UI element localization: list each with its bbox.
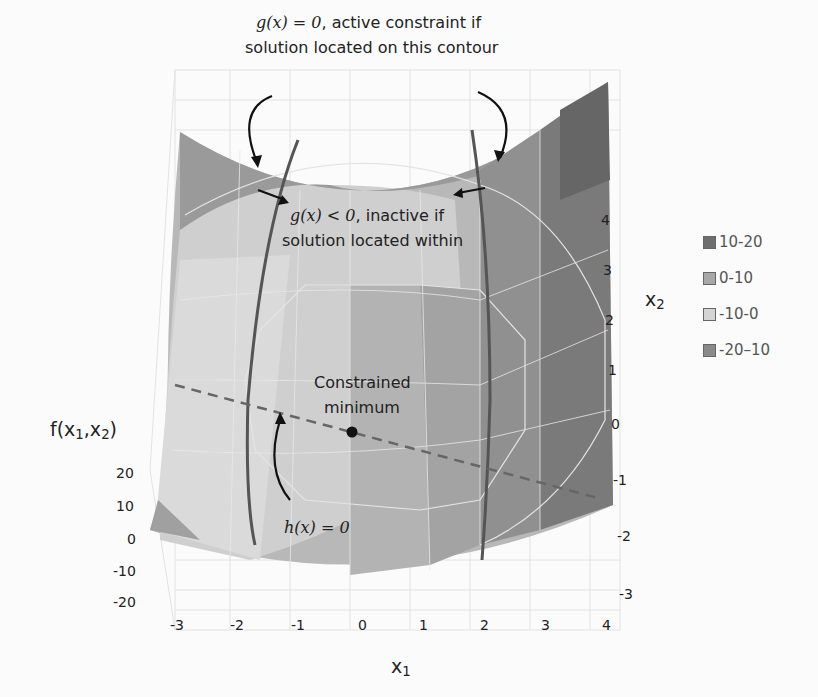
legend: 10-20 0-10 -10-0 -20–10 bbox=[703, 224, 770, 368]
x-title-sub: 1 bbox=[402, 664, 410, 679]
y-tick: 0 bbox=[611, 416, 620, 432]
annotation-minimum-label: minimum bbox=[324, 398, 400, 417]
z-title-part: ,x bbox=[84, 418, 101, 440]
y-tick: 3 bbox=[603, 262, 612, 278]
x-title-part: x bbox=[391, 655, 402, 677]
z-title-part: ) bbox=[110, 418, 117, 440]
surface-plot bbox=[0, 0, 818, 697]
legend-swatch-icon bbox=[703, 344, 716, 357]
z-title-sub: 1 bbox=[75, 427, 83, 442]
y-title-part: x bbox=[645, 288, 656, 310]
legend-swatch-icon bbox=[703, 272, 716, 285]
z-tick: 10 bbox=[116, 498, 134, 514]
z-title-part: f(x bbox=[50, 418, 75, 440]
z-tick: 0 bbox=[127, 531, 136, 547]
annotation-equality-constraint: h(x) = 0 bbox=[284, 518, 350, 537]
annotation-inactive-constraint: g(x) < 0, inactive if bbox=[290, 206, 444, 225]
legend-label: -10-0 bbox=[719, 305, 758, 323]
z-tick: 20 bbox=[116, 465, 134, 481]
annotation-constrained-label: Constrained bbox=[314, 373, 411, 392]
figure: g(x) = 0, active constraint if solution … bbox=[0, 0, 818, 697]
annotation-math-g-lt: g(x) < 0 bbox=[290, 206, 356, 225]
x-tick: -1 bbox=[291, 617, 305, 633]
x-tick: 2 bbox=[480, 617, 489, 633]
y-tick: -2 bbox=[617, 528, 631, 544]
y-title-sub: 2 bbox=[656, 297, 664, 312]
legend-swatch-icon bbox=[703, 308, 716, 321]
annotation-active-constraint: g(x) = 0, active constraint if bbox=[256, 13, 481, 32]
legend-item: 10-20 bbox=[703, 224, 770, 260]
y-axis-title: x2 bbox=[645, 288, 665, 312]
y-tick: -3 bbox=[619, 586, 633, 602]
annotation-active-constraint-line2: solution located on this contour bbox=[245, 38, 498, 57]
y-tick: -1 bbox=[613, 472, 627, 488]
legend-item: -10-0 bbox=[703, 296, 770, 332]
legend-label: 10-20 bbox=[719, 233, 763, 251]
x-tick: -2 bbox=[230, 617, 244, 633]
z-tick: -20 bbox=[113, 594, 136, 610]
constrained-minimum-point bbox=[347, 427, 358, 438]
x-tick: 4 bbox=[602, 617, 611, 633]
x-tick: 1 bbox=[419, 617, 428, 633]
z-tick: -10 bbox=[113, 563, 136, 579]
annotation-math-g-eq: g(x) = 0 bbox=[256, 13, 322, 32]
annotation-text-g-eq: , active constraint if bbox=[322, 13, 482, 32]
y-tick: 4 bbox=[601, 212, 610, 228]
x-tick: -3 bbox=[170, 617, 184, 633]
z-axis-title: f(x1,x2) bbox=[50, 418, 117, 442]
annotation-inactive-constraint-line2: solution located within bbox=[282, 231, 463, 250]
legend-label: 0-10 bbox=[719, 269, 753, 287]
annotation-text-g-lt: , inactive if bbox=[356, 206, 445, 225]
legend-swatch-icon bbox=[703, 236, 716, 249]
x-tick: 0 bbox=[358, 617, 367, 633]
legend-label: -20–10 bbox=[719, 341, 770, 359]
y-tick: 2 bbox=[605, 312, 614, 328]
z-title-sub: 2 bbox=[101, 427, 109, 442]
x-axis-title: x1 bbox=[391, 655, 411, 679]
y-tick: 1 bbox=[608, 362, 617, 378]
x-tick: 3 bbox=[541, 617, 550, 633]
legend-item: 0-10 bbox=[703, 260, 770, 296]
legend-item: -20–10 bbox=[703, 332, 770, 368]
